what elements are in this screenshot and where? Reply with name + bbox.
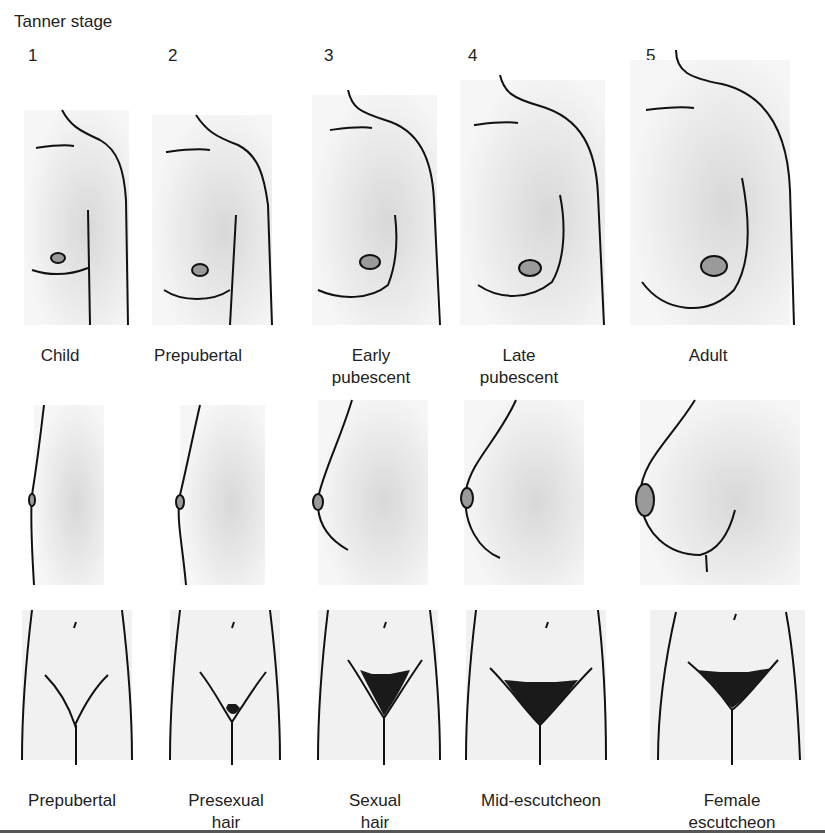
breast-label-stage-5: Adult [628,345,788,367]
breast-label-stage-2: Prepubertal [118,345,278,367]
breast-label-stage-3: Early pubescent [316,345,426,389]
pubic-label-stage-3: Sexual hair [340,790,410,834]
pubic-label-stage-2: Presexual hair [176,790,276,834]
bottom-rule [0,830,825,833]
lateral-breast-illustrations [0,400,825,600]
pubic-hair-illustrations [0,600,825,770]
frontal-breast-illustrations [0,0,825,330]
pubic-label-stage-5: Female escutcheon [682,790,782,834]
pubic-label-stage-1: Prepubertal [0,790,152,812]
pubic-label-stage-4: Mid-escutcheon [466,790,616,812]
breast-label-stage-4: Late pubescent [464,345,574,389]
